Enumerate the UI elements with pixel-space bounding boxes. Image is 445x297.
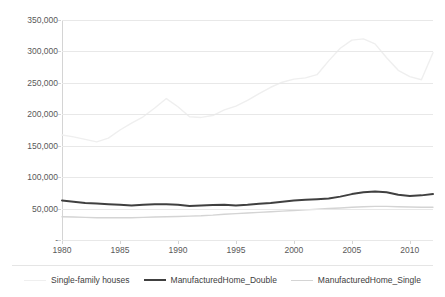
x-tick-mark [352,241,353,244]
legend-swatch [144,279,166,281]
x-tick-mark [294,241,295,244]
y-tick-mark [58,177,61,178]
x-tick-label: 1980 [53,245,72,255]
y-tick-label: 100,000 [2,172,58,182]
line-chart: -50,000100,000150,000200,000250,000300,0… [0,0,445,297]
y-tick-label: 200,000 [2,109,58,119]
legend-label: Single-family houses [51,275,129,285]
series-layer [62,20,433,240]
x-tick-mark [410,241,411,244]
y-tick-mark [58,83,61,84]
plot-area [62,20,433,240]
y-tick-mark [58,146,61,147]
gridline [62,51,433,52]
series-line [62,39,433,142]
y-axis: -50,000100,000150,000200,000250,000300,0… [0,0,58,241]
x-tick-label: 2010 [400,245,419,255]
legend-item[interactable]: ManufacturedHome_Single [291,275,421,285]
x-tick-label: 1990 [168,245,187,255]
x-tick-mark [62,241,63,244]
y-tick-mark [58,51,61,52]
y-tick-label: 250,000 [2,78,58,88]
legend-swatch [24,280,46,281]
gridline [62,146,433,147]
x-tick-mark [178,241,179,244]
y-tick-mark [58,20,61,21]
gridline [62,114,433,115]
x-tick-label: 2000 [284,245,303,255]
gridline [62,240,433,241]
y-tick-mark [58,114,61,115]
y-tick-label: 350,000 [2,15,58,25]
y-tick-label: - [2,235,58,245]
x-tick-label: 1995 [226,245,245,255]
x-tick-mark [236,241,237,244]
x-tick-mark [120,241,121,244]
legend-label: ManufacturedHome_Double [171,275,277,285]
y-tick-label: 50,000 [2,204,58,214]
y-tick-mark [58,240,61,241]
chart-legend: Single-family housesManufacturedHome_Dou… [0,270,445,290]
y-tick-label: 150,000 [2,141,58,151]
gridline [62,209,433,210]
series-line [62,192,433,206]
gridline [62,20,433,21]
legend-divider [12,265,433,266]
legend-label: ManufacturedHome_Single [318,275,421,285]
y-tick-mark [58,209,61,210]
legend-item[interactable]: ManufacturedHome_Double [144,275,277,285]
x-tick-label: 2005 [342,245,361,255]
gridline [62,83,433,84]
gridline [62,177,433,178]
legend-item[interactable]: Single-family houses [24,275,129,285]
x-tick-label: 1985 [111,245,130,255]
y-tick-label: 300,000 [2,46,58,56]
legend-swatch [291,280,313,281]
